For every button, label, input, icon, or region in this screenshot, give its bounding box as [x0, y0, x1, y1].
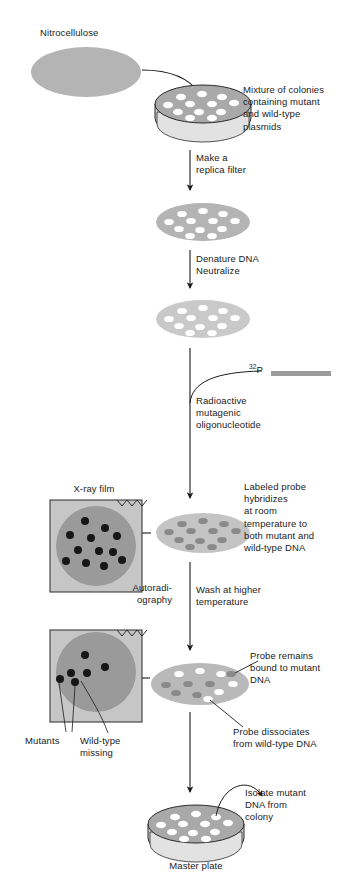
nitrocellulose-disc	[31, 47, 141, 97]
label-nitrocellulose: Nitrocellulose	[40, 27, 98, 39]
label-wash-higher-temperature: Wash at higher temperature	[196, 584, 261, 608]
label-p32-superscript: 32	[249, 363, 257, 370]
label-denature-neutralize: Denature DNA Neutralize	[196, 253, 259, 277]
replica-filter	[156, 203, 250, 241]
master-dish-top	[155, 85, 251, 142]
master-plate-bottom	[148, 805, 244, 862]
label-labeled-probe: Labeled probe hybridizes at room tempera…	[244, 481, 314, 554]
diagram-illustration	[0, 0, 339, 887]
label-probe-remains-bound: Probe remains bound to mutant DNA	[250, 650, 320, 687]
label-isolate-mutant-dna: Isolate mutant DNA from colony	[245, 787, 306, 824]
film-all-colonies	[50, 500, 147, 592]
label-autoradiography: Autoradi- ography	[110, 582, 172, 606]
probe-bar	[271, 371, 331, 376]
label-p32-probe: 32P	[249, 364, 263, 376]
label-wild-type-missing: Wild-type missing	[80, 735, 121, 759]
label-mixture-of-colonies: Mixture of colonies containing mutant an…	[243, 84, 324, 133]
label-probe-dissociates: Probe dissociates from wild-type DNA	[233, 726, 317, 750]
washed-filter	[151, 663, 249, 705]
leader-probe-dissociates	[210, 700, 243, 727]
label-mutants: Mutants	[25, 735, 60, 747]
label-radioactive-probe: Radioactive mutagenic oligonucleotide	[196, 395, 261, 432]
label-xray-film: X-ray film	[44, 483, 144, 495]
label-master-plate: Master plate	[146, 860, 246, 872]
figure-canvas: Nitrocellulose Mixture of colonies conta…	[0, 0, 339, 887]
denatured-filter	[156, 300, 250, 338]
hybridized-filter	[156, 513, 250, 553]
label-make-replica-filter: Make a replica filter	[196, 152, 246, 176]
label-p32-base: P	[257, 364, 263, 375]
film-mutants-only	[50, 630, 147, 733]
